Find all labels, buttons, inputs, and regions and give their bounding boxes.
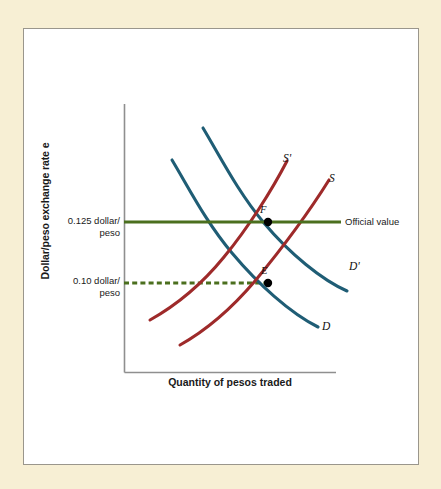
x-axis-title: Quantity of pesos traded [124, 376, 336, 388]
curve-label-d-prime: D' [349, 260, 360, 272]
point-label-f: F [260, 204, 266, 215]
y-tick-official-line2: peso [40, 227, 120, 239]
curve-label-s: S [329, 172, 335, 184]
y-tick-market-line2: peso [40, 287, 120, 299]
y-tick-label-market-value: 0.10 dollar/ peso [40, 275, 120, 298]
chart-panel [23, 28, 419, 465]
y-tick-label-official-value: 0.125 dollar/ peso [40, 215, 120, 238]
curve-label-s-prime: S' [283, 152, 291, 164]
official-value-legend-label: Official value [345, 216, 399, 227]
point-label-e: E [261, 265, 267, 276]
curve-label-d: D [322, 320, 330, 332]
y-tick-official-line1: 0.125 dollar/ [40, 215, 120, 227]
y-tick-market-line1: 0.10 dollar/ [40, 275, 120, 287]
figure-root: Dollar/peso exchange rate e Quantity of … [0, 0, 441, 489]
